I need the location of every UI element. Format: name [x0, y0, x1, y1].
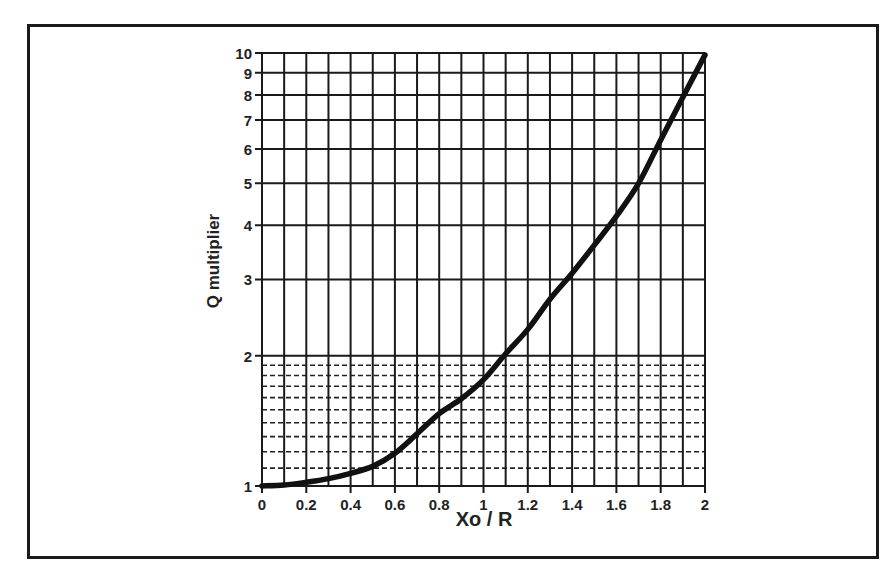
y-tick-label: 1	[244, 478, 252, 495]
x-tick-label: 1.8	[650, 496, 671, 513]
x-tick-label: 0	[258, 496, 266, 513]
x-tick-label: 2	[701, 496, 709, 513]
x-tick-label: 1.4	[562, 496, 584, 513]
y-tick-label: 3	[244, 271, 252, 288]
x-tick-label: 0.6	[384, 496, 405, 513]
x-axis-title: Xo / R	[456, 508, 513, 530]
grid	[255, 53, 705, 493]
x-tick-label: 0.4	[340, 496, 362, 513]
y-tick-label: 2	[244, 348, 252, 365]
y-tick-labels: 12345678910	[235, 45, 252, 495]
y-tick-label: 10	[235, 45, 252, 62]
y-tick-label: 9	[244, 65, 252, 82]
x-tick-label: 1.6	[606, 496, 627, 513]
x-tick-label: 0.2	[296, 496, 317, 513]
chart: 00.20.40.60.811.21.41.61.82 12345678910 …	[0, 0, 896, 580]
y-axis-title: Q multiplier	[204, 213, 223, 308]
y-tick-label: 5	[244, 175, 252, 192]
y-tick-label: 8	[244, 87, 252, 104]
x-tick-label: 0.8	[429, 496, 450, 513]
y-tick-label: 6	[244, 141, 252, 158]
x-tick-label: 1.2	[517, 496, 538, 513]
y-tick-label: 7	[244, 112, 252, 129]
y-tick-label: 4	[244, 217, 253, 234]
